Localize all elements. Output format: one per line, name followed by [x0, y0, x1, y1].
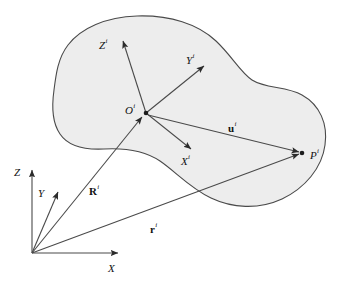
global-axis-y-label: Y	[38, 184, 44, 200]
point-P-node	[300, 151, 305, 156]
vector-r-label: ri	[150, 220, 157, 236]
global-axis-z-label: Z	[14, 163, 20, 179]
body-axis-y-label: Yi	[186, 51, 194, 67]
diagram-figure: Z Y X Zi Yi Xi Oi Pi Ri ri ui	[0, 0, 344, 281]
vector-u-label: ui	[228, 119, 236, 135]
deformable-body-shape	[53, 16, 326, 206]
point-P-label: Pi	[310, 146, 319, 162]
vector-R-label: Ri	[89, 182, 99, 198]
global-axis-y-line	[32, 192, 58, 253]
body-axis-x-label: Xi	[181, 152, 190, 168]
global-frame-axes	[32, 170, 118, 253]
body-origin-label: Oi	[125, 101, 135, 117]
global-axis-x-label: X	[108, 259, 115, 275]
body-axis-z-label: Zi	[99, 36, 107, 52]
body-origin-node	[144, 111, 149, 116]
diagram-canvas	[0, 0, 344, 281]
